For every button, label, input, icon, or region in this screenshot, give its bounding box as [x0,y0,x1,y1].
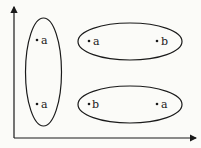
point-label: a [41,98,48,111]
point-label: a [41,34,48,47]
point-dot [36,103,39,106]
point-dot [88,40,91,43]
cluster-diagram: a a a b b a [0,0,201,148]
top-right-cluster: a b [78,23,182,60]
bottom-right-cluster: b a [78,86,182,123]
left-vertical-cluster: a a [26,18,62,126]
point-label: a [93,35,100,48]
point-label: b [92,98,99,111]
point-label: a [161,98,168,111]
point-dot [36,39,39,42]
point-dot [156,103,159,106]
point-dot [156,40,159,43]
point-dot [88,103,91,106]
point-label: b [161,35,168,48]
